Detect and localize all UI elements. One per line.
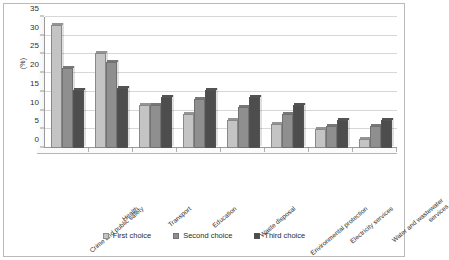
bar[interactable]	[238, 107, 249, 148]
bar-body	[205, 90, 216, 148]
y-tick-mark	[40, 147, 44, 148]
bar[interactable]	[117, 88, 128, 148]
bar-side-face	[216, 88, 218, 146]
bar[interactable]	[73, 90, 84, 148]
x-axis-label: Water and wastewaterservices	[390, 197, 449, 250]
bar-body	[161, 97, 172, 148]
y-tick-mark	[40, 72, 44, 73]
bar-top-face	[250, 95, 261, 97]
bar-body	[359, 139, 370, 148]
bar-body	[249, 97, 260, 148]
bar-side-face	[392, 118, 394, 146]
bar[interactable]	[359, 139, 370, 148]
y-tick-mark	[40, 53, 44, 54]
bar-top-face	[52, 23, 63, 25]
bar[interactable]	[326, 126, 337, 148]
bar-group	[221, 17, 265, 148]
bar-body	[117, 88, 128, 148]
bar[interactable]	[205, 90, 216, 148]
bar-body	[150, 105, 161, 148]
y-tick-label: 0	[35, 135, 39, 144]
bar[interactable]	[370, 126, 381, 148]
legend-swatch	[254, 233, 260, 239]
x-axis-label: Transport	[166, 204, 192, 227]
legend-label: Second choice	[183, 231, 232, 240]
legend-swatch	[173, 233, 179, 239]
bar[interactable]	[150, 105, 161, 148]
bar[interactable]	[194, 99, 205, 148]
bar-top-face	[74, 88, 85, 90]
bar-top-face	[382, 118, 393, 120]
bar[interactable]	[51, 25, 62, 149]
bar-body	[95, 53, 106, 148]
bar-body	[139, 105, 150, 148]
bar-body	[238, 107, 249, 148]
bar-body	[271, 124, 282, 148]
bar-body	[337, 120, 348, 148]
bar-top-face	[338, 118, 349, 120]
bar-top-face	[162, 95, 173, 97]
bar-group	[45, 17, 89, 148]
legend-swatch	[103, 233, 109, 239]
bar[interactable]	[293, 105, 304, 148]
x-axis-label: Education	[211, 204, 238, 228]
bar-group	[89, 17, 133, 148]
bar-side-face	[172, 95, 174, 146]
legend-item[interactable]: First choice	[103, 231, 151, 240]
bar-body	[73, 90, 84, 148]
bar-side-face	[128, 86, 130, 146]
bar[interactable]	[315, 129, 326, 148]
bar-body	[326, 126, 337, 148]
plot-inner: 05101520253035	[45, 17, 397, 148]
y-tick-label: 10	[30, 97, 39, 106]
bar-top-face	[294, 103, 305, 105]
bar-body	[62, 68, 73, 148]
bar-group	[177, 17, 221, 148]
bar[interactable]	[183, 114, 194, 148]
legend-item[interactable]: Second choice	[173, 231, 232, 240]
bar[interactable]	[381, 120, 392, 148]
bar[interactable]	[337, 120, 348, 148]
bar-body	[370, 126, 381, 148]
bar-top-face	[63, 66, 74, 68]
bar-group	[309, 17, 353, 148]
bar[interactable]	[62, 68, 73, 148]
legend-label: Third choice	[264, 231, 305, 240]
y-tick-mark	[40, 34, 44, 35]
y-tick-mark	[40, 128, 44, 129]
bar-top-face	[206, 88, 217, 90]
bar[interactable]	[249, 97, 260, 148]
y-tick-label: 15	[30, 78, 39, 87]
bar[interactable]	[282, 114, 293, 148]
y-tick-mark	[40, 16, 44, 17]
bar-top-face	[107, 60, 118, 62]
bar-top-face	[118, 86, 129, 88]
bar[interactable]	[161, 97, 172, 148]
bar-body	[106, 62, 117, 148]
legend-item[interactable]: Third choice	[254, 231, 305, 240]
bar-group	[133, 17, 177, 148]
bar-side-face	[84, 88, 86, 146]
y-tick-label: 30	[30, 22, 39, 31]
y-tick-label: 25	[30, 41, 39, 50]
x-axis-label-line: Transport	[166, 204, 192, 227]
bar[interactable]	[227, 120, 238, 148]
plot-area: 05101520253035	[45, 17, 397, 148]
bar-group	[265, 17, 309, 148]
x-axis-label-line: Education	[211, 204, 238, 228]
bar[interactable]	[139, 105, 150, 148]
bar-top-face	[96, 51, 107, 53]
bar-body	[293, 105, 304, 148]
y-axis-title: (%)	[19, 44, 26, 84]
bar[interactable]	[106, 62, 117, 148]
bar-body	[183, 114, 194, 148]
y-tick-label: 35	[30, 4, 39, 13]
y-tick-mark	[40, 90, 44, 91]
bar[interactable]	[271, 124, 282, 148]
bar[interactable]	[95, 53, 106, 148]
legend-label: First choice	[113, 231, 151, 240]
chart-legend: First choiceSecond choiceThird choice	[0, 231, 408, 240]
bar-side-face	[348, 118, 350, 146]
bar-groups	[45, 17, 397, 148]
